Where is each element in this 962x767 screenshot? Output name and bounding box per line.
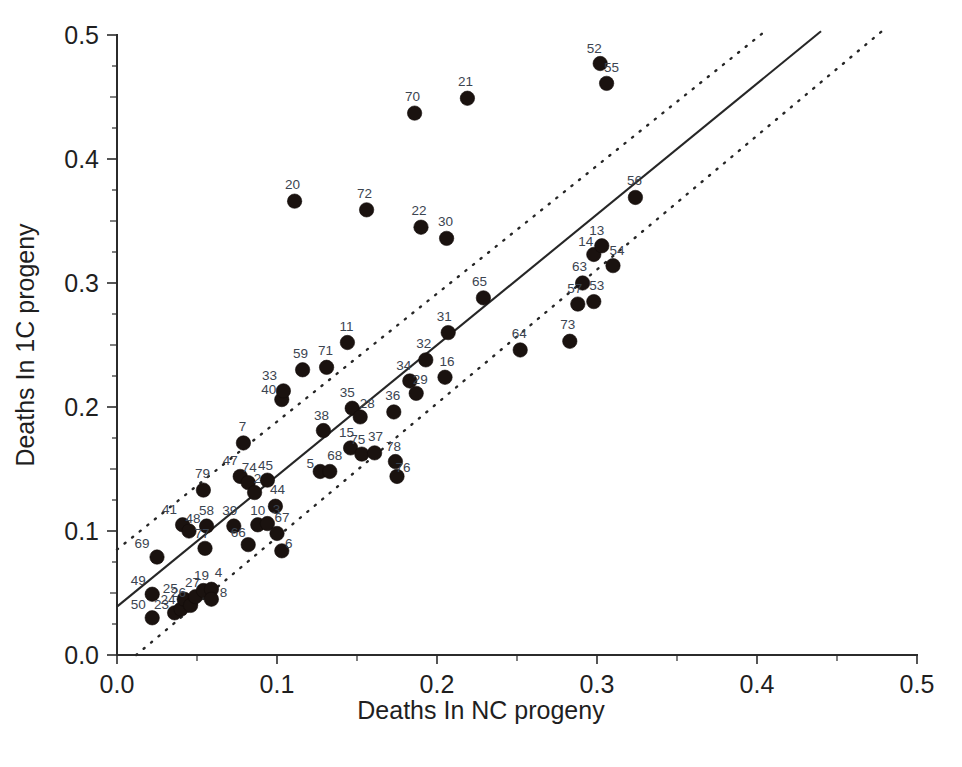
data-point-label: 50 [131, 597, 146, 612]
data-point [359, 203, 373, 217]
x-tick-label: 0.1 [260, 670, 295, 698]
data-point-label: 13 [589, 223, 604, 238]
data-point [595, 239, 609, 253]
data-point-label: 55 [604, 60, 619, 75]
data-point-label: 39 [222, 503, 237, 518]
y-tick-label: 0.1 [64, 517, 99, 545]
data-point-label: 7 [239, 419, 247, 434]
data-point-label: 22 [411, 203, 426, 218]
data-point-labels-group: 5049692324252627414819485879773966477472… [131, 41, 642, 612]
x-tick-label: 0.4 [740, 670, 775, 698]
data-point-label: 67 [274, 510, 289, 525]
data-point-label: 78 [386, 439, 401, 454]
x-axis-tick-labels: 0.00.10.20.30.40.5 [100, 670, 935, 698]
x-tick-label: 0.5 [900, 670, 935, 698]
data-point [319, 360, 333, 374]
data-point [353, 410, 367, 424]
y-axis-title: Deaths In 1C progeny [11, 223, 39, 467]
data-point-label: 49 [131, 573, 146, 588]
upper-band [117, 31, 765, 549]
data-point [407, 106, 421, 120]
x-axis-ticks [117, 655, 917, 664]
confidence-band-lines [117, 31, 882, 655]
data-point-label: 54 [609, 243, 625, 258]
data-point-label: 41 [162, 502, 177, 517]
data-point-label: 32 [416, 336, 431, 351]
data-point [599, 76, 613, 90]
data-point-label: 33 [262, 368, 277, 383]
data-point [295, 363, 309, 377]
data-point [387, 405, 401, 419]
data-point-label: 56 [627, 173, 642, 188]
data-point [438, 370, 452, 384]
data-point [419, 353, 433, 367]
data-point-label: 65 [472, 274, 487, 289]
y-tick-label: 0.0 [64, 641, 99, 669]
data-point-label: 72 [357, 186, 372, 201]
data-point [340, 335, 354, 349]
data-point-label: 31 [437, 309, 452, 324]
scatter-plot-figure: 0.00.10.20.30.40.5 0.00.10.20.30.40.5 50… [0, 0, 962, 767]
y-axis-tick-labels: 0.00.10.20.30.40.5 [64, 21, 99, 669]
data-point-label: 35 [340, 385, 355, 400]
data-point-label: 40 [261, 382, 276, 397]
data-point-label: 38 [314, 408, 329, 423]
data-point-label: 21 [458, 74, 473, 89]
data-point [150, 550, 164, 564]
data-point [409, 386, 423, 400]
regression-fit-line [117, 31, 821, 606]
data-point-label: 37 [368, 429, 383, 444]
data-point-label: 29 [413, 372, 428, 387]
data-point-label: 71 [318, 343, 333, 358]
data-point [476, 291, 490, 305]
data-point-label: 45 [258, 458, 273, 473]
x-tick-label: 0.0 [100, 670, 135, 698]
data-point-label: 66 [231, 525, 246, 540]
data-point-label: 28 [360, 396, 375, 411]
x-axis-title: Deaths In NC progeny [357, 696, 605, 724]
data-point-label: 34 [396, 358, 412, 373]
y-axis-ticks [107, 35, 117, 655]
data-point-label: 75 [350, 432, 365, 447]
data-point [287, 194, 301, 208]
data-point [606, 258, 620, 272]
data-point-label: 30 [438, 214, 453, 229]
data-point-label: 16 [439, 354, 454, 369]
data-point [196, 483, 210, 497]
data-point [414, 220, 428, 234]
y-tick-label: 0.5 [64, 21, 99, 49]
data-point-label: 11 [339, 319, 353, 334]
data-point [628, 190, 642, 204]
data-point-label: 76 [395, 460, 410, 475]
data-point [439, 231, 453, 245]
data-point [571, 297, 585, 311]
data-point [367, 446, 381, 460]
data-point-label: 53 [589, 278, 604, 293]
data-points-group [145, 56, 643, 625]
data-point [513, 343, 527, 357]
data-point-label: 19 [194, 568, 209, 583]
data-point-label: 44 [270, 482, 286, 497]
data-point-label: 70 [405, 89, 420, 104]
x-tick-label: 0.2 [420, 670, 455, 698]
data-point [236, 436, 250, 450]
data-point-label: 77 [194, 526, 209, 541]
data-point [441, 325, 455, 339]
data-point [587, 294, 601, 308]
data-point-label: 63 [572, 259, 587, 274]
plot-svg: 0.00.10.20.30.40.5 0.00.10.20.30.40.5 50… [0, 0, 962, 767]
data-point-label: 5 [306, 456, 314, 471]
data-point-label: 52 [587, 41, 602, 56]
data-point-label: 10 [250, 503, 265, 518]
data-point-label: 64 [512, 326, 528, 341]
data-point-label: 59 [293, 346, 308, 361]
data-point-label: 4 [215, 565, 223, 580]
x-tick-label: 0.3 [580, 670, 615, 698]
data-point [276, 384, 290, 398]
data-point [323, 464, 337, 478]
data-point-label: 68 [327, 448, 342, 463]
data-point [460, 91, 474, 105]
data-point-label: 58 [199, 503, 214, 518]
data-point [270, 526, 284, 540]
data-point [247, 485, 261, 499]
